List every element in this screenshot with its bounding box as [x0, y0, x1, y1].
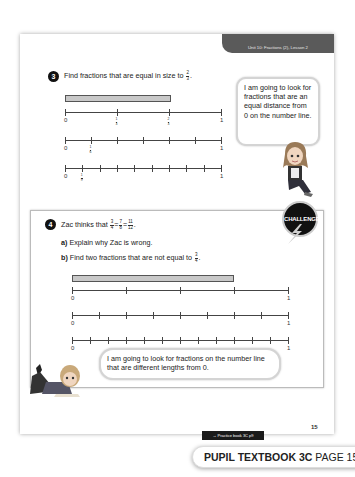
boy-character-illustration — [28, 362, 86, 398]
number-line-label-start: 0 — [71, 345, 74, 351]
number-line-label-end: 1 — [287, 345, 290, 351]
practice-book-link[interactable]: → Practice book 3C p9 — [202, 431, 264, 440]
fraction-two-thirds: 23 — [186, 71, 190, 81]
number-line — [65, 165, 221, 173]
number-line-tick — [99, 312, 100, 319]
fraction-seven-eighths: 78 — [119, 220, 123, 230]
number-line-tick — [252, 337, 253, 344]
number-line-tick — [186, 165, 187, 172]
number-line-tick — [134, 165, 135, 172]
book-title: PUPIL TEXTBOOK 3C — [204, 451, 312, 463]
number-line-tick — [117, 165, 118, 172]
number-line-tick — [270, 337, 271, 344]
fraction-bar-two-thirds — [65, 95, 171, 102]
number-line-label-end: 1 — [287, 320, 290, 326]
number-line-tick — [288, 337, 289, 344]
number-line-tick — [234, 287, 235, 294]
number-line-tick — [144, 337, 145, 344]
number-line-tick — [169, 137, 170, 144]
number-line-label-start: 0 — [71, 295, 74, 301]
question-4-number: 4 — [45, 219, 56, 230]
number-line-fraction-label: 13 — [116, 118, 118, 126]
speech-bubble-q3: I am going to look for fractions that ar… — [236, 77, 320, 146]
number-line-tick — [288, 312, 289, 319]
number-line-label-start: 0 — [64, 145, 67, 151]
number-line-tick — [221, 137, 222, 144]
lightning-bolt-icon — [286, 224, 306, 244]
number-line-tick — [153, 312, 154, 319]
number-line-tick — [162, 337, 163, 344]
number-line-tick — [117, 109, 118, 116]
question-3-prompt: Find fractions that are equal in size to — [64, 71, 183, 80]
question-4a: a) Explain why Zac is wrong. — [61, 238, 153, 247]
number-line-tick — [207, 312, 208, 319]
page-label: PAGE 15 — [315, 451, 355, 463]
number-line — [72, 337, 288, 345]
number-line-tick — [234, 337, 235, 344]
question-3-text: Find fractions that are equal in size to… — [64, 71, 192, 81]
number-line-tick — [65, 165, 66, 172]
number-line-tick — [216, 337, 217, 344]
number-line-label-end: 1 — [220, 145, 223, 151]
number-line-tick — [72, 337, 73, 344]
number-line — [65, 137, 221, 145]
number-line-tick — [100, 165, 101, 172]
number-line-tick — [108, 337, 109, 344]
number-line-label-start: 0 — [64, 117, 67, 123]
unit-lesson-tab: Unit 10: Fractions (2), Lesson 2 — [222, 34, 334, 53]
number-line-label-start: 0 — [71, 320, 74, 326]
number-line-tick — [204, 165, 205, 172]
number-line-tick — [261, 312, 262, 319]
number-line-fraction-label: 19 — [81, 174, 83, 182]
question-4b: b) Find two fractions that are not equal… — [61, 253, 201, 263]
number-line-tick — [82, 165, 83, 172]
number-line-tick — [180, 287, 181, 294]
number-line — [72, 287, 288, 295]
speech-bubble-q4: I am going to look for fractions on the … — [99, 348, 281, 380]
number-line-tick — [198, 337, 199, 344]
number-line-label-start: 0 — [64, 173, 67, 179]
textbook-page: Unit 10: Fractions (2), Lesson 2 3 Find … — [20, 34, 334, 434]
number-line-tick — [72, 287, 73, 294]
number-line-tick — [152, 165, 153, 172]
number-line-tick — [126, 287, 127, 294]
number-line-tick — [221, 109, 222, 116]
number-line-tick — [126, 337, 127, 344]
fraction-three-quarters-b: 34 — [195, 253, 199, 263]
number-line-tick — [288, 287, 289, 294]
number-line-tick — [169, 109, 170, 116]
number-line-tick — [65, 109, 66, 116]
number-line-tick — [72, 312, 73, 319]
number-line-tick — [91, 137, 92, 144]
number-line-tick — [180, 337, 181, 344]
number-line-axis — [65, 168, 221, 169]
number-line-tick — [143, 137, 144, 144]
page-number: 15 — [311, 424, 318, 430]
number-line-fraction-label: 16 — [90, 146, 92, 154]
fraction-bar-three-quarters — [72, 275, 234, 282]
question-4-intro: Zac thinks that 34=78=1112. — [61, 220, 136, 230]
number-line-tick — [126, 312, 127, 319]
number-line-tick — [221, 165, 222, 172]
number-line-tick — [234, 312, 235, 319]
number-line — [72, 312, 288, 320]
girl-character-illustration — [275, 142, 315, 200]
number-line-tick — [65, 137, 66, 144]
textbook-page-label: PUPIL TEXTBOOK 3C PAGE 15 — [192, 446, 355, 468]
question-3-number: 3 — [48, 71, 59, 82]
number-line-axis — [65, 112, 221, 113]
number-line-tick — [117, 137, 118, 144]
fraction-three-quarters: 34 — [110, 220, 114, 230]
number-line — [65, 109, 221, 117]
number-line-fraction-label: 23 — [168, 118, 170, 126]
number-line-label-end: 1 — [220, 117, 223, 123]
number-line-tick — [90, 337, 91, 344]
fraction-eleven-twelfths: 1112 — [128, 220, 134, 230]
number-line-tick — [169, 165, 170, 172]
number-line-tick — [195, 137, 196, 144]
number-line-tick — [180, 312, 181, 319]
number-line-label-end: 1 — [287, 295, 290, 301]
number-line-label-end: 1 — [220, 173, 223, 179]
